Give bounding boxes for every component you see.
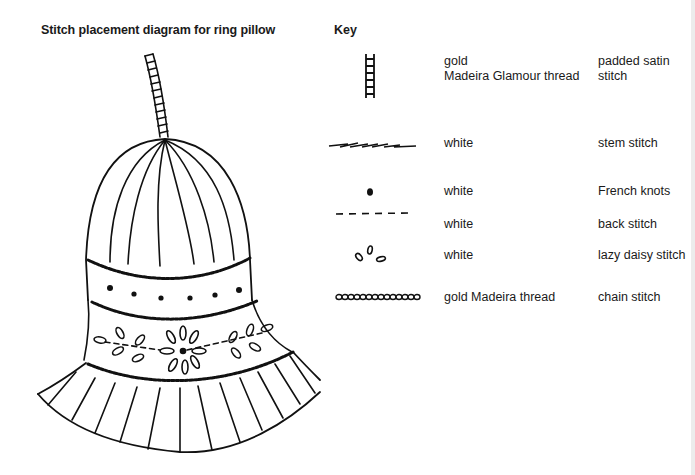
thread-label: Madeira Glamour thread xyxy=(444,69,579,84)
french-knot-icon xyxy=(366,187,374,197)
thread-label: white xyxy=(444,184,473,199)
stitch-label: chain stitch xyxy=(598,290,661,305)
stitch-label: back stitch xyxy=(598,217,657,232)
thread-label: gold Madeira thread xyxy=(444,290,555,305)
chain-stitch-icon xyxy=(335,293,421,301)
stitch-label: stem stitch xyxy=(598,136,658,151)
thread-label: white xyxy=(444,217,473,232)
ladder-symbol-icon xyxy=(364,54,376,98)
handle-padded-satin xyxy=(145,54,168,137)
stitch-label: lazy daisy stitch xyxy=(598,248,686,263)
bell-diagram xyxy=(0,0,330,475)
lazy-daisy-icon xyxy=(354,244,388,266)
stitch-label: stitch xyxy=(598,69,670,84)
stitch-label: padded satin xyxy=(598,54,670,69)
stem-stitch-icon xyxy=(328,140,418,150)
key-title: Key xyxy=(334,23,357,37)
thread-label: gold xyxy=(444,54,579,69)
stitch-label: French knots xyxy=(598,184,670,199)
back-stitch-icon xyxy=(336,211,416,217)
thread-label: white xyxy=(444,136,473,151)
thread-label: white xyxy=(444,248,473,263)
page-edge xyxy=(691,0,695,475)
